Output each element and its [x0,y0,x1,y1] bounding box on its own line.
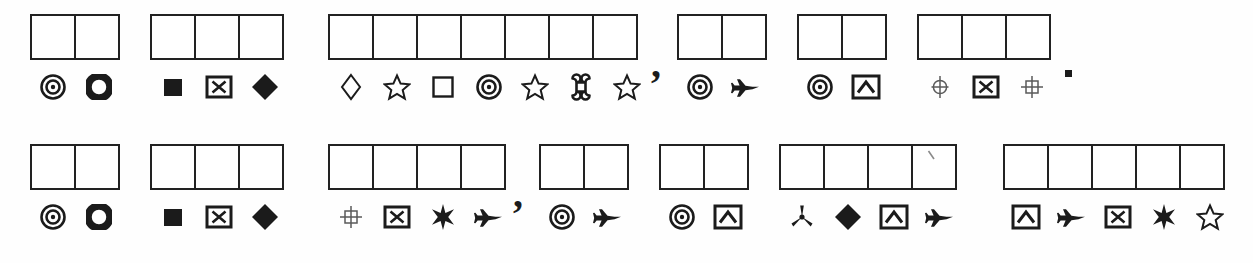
target-icon [659,200,705,234]
answer-cell[interactable] [867,144,913,190]
cipher-word-r2w5[interactable] [659,144,751,234]
boxed-chevron-icon [843,70,889,104]
symbol-row-r2w5 [659,200,751,234]
answer-cell[interactable] [30,144,76,190]
answer-cell[interactable] [1091,144,1137,190]
answer-cell[interactable] [328,144,374,190]
cipher-line-2: , [0,144,1253,234]
answer-cell[interactable] [1003,144,1049,190]
boxed-x-icon [196,200,242,234]
answer-cell[interactable] [1005,14,1051,60]
symbol-row-r2w6 [779,200,963,234]
answer-cell[interactable] [238,14,284,60]
outline-square-icon [420,70,466,104]
answer-cell[interactable] [30,14,76,60]
target-icon [466,70,512,104]
boxed-x-icon [1095,200,1141,234]
answer-cell[interactable] [703,144,749,190]
airplane-icon [1049,200,1095,234]
answer-cell[interactable] [823,144,869,190]
comma-punctuation: , [651,44,661,84]
symbol-row-r2w4 [539,200,631,234]
outline-star-icon [374,70,420,104]
cipher-line-1: , [0,14,1253,104]
comma-punctuation: , [513,174,523,214]
answer-cell[interactable] [917,14,963,60]
cipher-word-r2w7[interactable] [1003,144,1233,234]
answer-cell[interactable] [961,14,1007,60]
cipher-word-r1w6[interactable] [917,14,1055,104]
symbol-row-r1w2 [150,70,288,104]
answer-cell[interactable] [416,144,462,190]
crosshatch-icon [1009,70,1055,104]
outline-star-icon [604,70,650,104]
cipher-word-r1w4[interactable] [677,14,769,104]
cipher-word-r1w1[interactable] [30,14,122,104]
answer-cell[interactable] [460,144,506,190]
answer-cell[interactable] [74,144,120,190]
answer-cell[interactable] [797,14,843,60]
filled-square-icon [150,200,196,234]
answer-cell[interactable] [150,144,196,190]
answer-cell[interactable] [841,14,887,60]
answer-cell[interactable] [372,14,418,60]
answer-cell[interactable] [194,144,240,190]
answer-cell[interactable] [548,14,594,60]
answer-boxes-r1w3[interactable] [328,14,636,60]
cipher-word-r2w2[interactable] [150,144,288,234]
answer-boxes-r1w4[interactable] [677,14,765,60]
donut-ring-icon [76,70,122,104]
answer-cell[interactable] [911,144,957,190]
symbol-row-r1w6 [917,70,1055,104]
symbol-row-r2w1 [30,200,122,234]
answer-cell[interactable] [721,14,767,60]
answer-cell[interactable] [328,14,374,60]
cipher-word-r2w1[interactable] [30,144,122,234]
answer-cell[interactable] [1135,144,1181,190]
answer-cell[interactable] [372,144,418,190]
symbol-row-r2w2 [150,200,288,234]
outline-diamond-icon [328,70,374,104]
answer-cell[interactable] [460,14,506,60]
answer-cell[interactable] [592,14,638,60]
cipher-word-r2w3[interactable] [328,144,512,234]
answer-cell[interactable] [504,14,550,60]
target-icon [539,200,585,234]
stray-pencil-mark [927,150,939,162]
cipher-word-r1w3[interactable] [328,14,650,104]
boxed-chevron-icon [1003,200,1049,234]
answer-cell[interactable] [238,144,284,190]
answer-boxes-r2w6[interactable] [779,144,955,190]
answer-boxes-r2w5[interactable] [659,144,747,190]
cipher-word-r1w2[interactable] [150,14,288,104]
answer-boxes-r1w5[interactable] [797,14,885,60]
cipher-word-r1w5[interactable] [797,14,889,104]
answer-cell[interactable] [1047,144,1093,190]
filled-six-point-star-icon [420,200,466,234]
answer-boxes-r1w1[interactable] [30,14,118,60]
answer-boxes-r2w1[interactable] [30,144,118,190]
answer-cell[interactable] [583,144,629,190]
answer-boxes-r2w2[interactable] [150,144,282,190]
outline-star-icon [1187,200,1233,234]
cipher-word-r2w4[interactable] [539,144,631,234]
answer-cell[interactable] [539,144,585,190]
answer-boxes-r1w6[interactable] [917,14,1049,60]
symbol-row-r2w7 [1003,200,1233,234]
answer-cell[interactable] [1179,144,1225,190]
answer-boxes-r2w4[interactable] [539,144,627,190]
crosshatch-icon [328,200,374,234]
answer-boxes-r2w7[interactable] [1003,144,1223,190]
answer-boxes-r1w2[interactable] [150,14,282,60]
answer-cell[interactable] [150,14,196,60]
cipher-word-r2w6[interactable] [779,144,963,234]
answer-cell[interactable] [659,144,705,190]
boxed-x-icon [196,70,242,104]
answer-boxes-r2w3[interactable] [328,144,504,190]
answer-cell[interactable] [677,14,723,60]
airplane-icon [917,200,963,234]
answer-cell[interactable] [416,14,462,60]
answer-cell[interactable] [74,14,120,60]
answer-cell[interactable] [194,14,240,60]
answer-cell[interactable] [779,144,825,190]
